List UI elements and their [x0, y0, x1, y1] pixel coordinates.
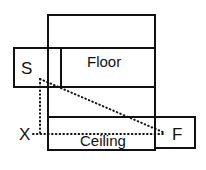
label-point-x: X — [19, 126, 30, 143]
label-source-s: S — [21, 60, 32, 77]
main-column-rect — [48, 15, 155, 150]
diagram-canvas: S Floor X Ceiling F — [0, 0, 206, 170]
label-focus-f: F — [172, 126, 182, 143]
label-floor: Floor — [87, 54, 121, 69]
label-ceiling: Ceiling — [80, 133, 126, 148]
